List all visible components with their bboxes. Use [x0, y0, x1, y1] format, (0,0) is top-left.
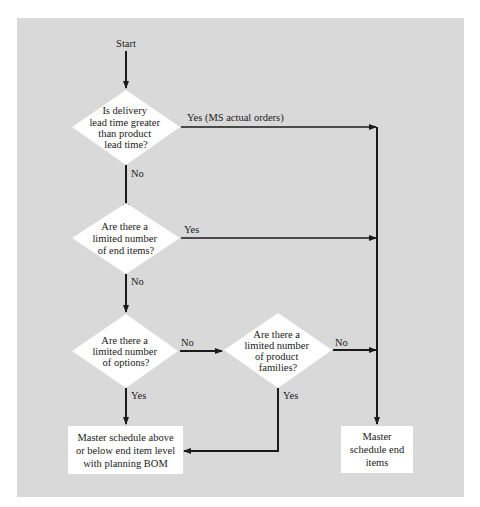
d4-no-label: No: [335, 337, 348, 348]
d2-no-label: No: [131, 276, 144, 287]
outcome-end-items: Master schedule end items: [341, 426, 413, 473]
d3-yes-label: Yes: [131, 390, 146, 401]
outcome-planning-bom-text: Master schedule above or below end item …: [68, 431, 183, 470]
outcome-end-items-text: Master schedule end items: [341, 430, 413, 469]
outcome-planning-bom: Master schedule above or below end item …: [68, 426, 183, 474]
d1-no-label: No: [131, 168, 144, 179]
start-label: Start: [116, 38, 136, 49]
d3-no-label: No: [181, 337, 194, 348]
d1-yes-label: Yes (MS actual orders): [187, 112, 284, 124]
decision-2-text: Are there a limited number of end items?: [92, 221, 159, 256]
d4-yes-arrow: [184, 388, 278, 451]
decision-3-text: Are there a limited number of options?: [92, 335, 159, 368]
d4-yes-label: Yes: [283, 390, 298, 401]
d2-yes-label: Yes: [184, 224, 199, 235]
